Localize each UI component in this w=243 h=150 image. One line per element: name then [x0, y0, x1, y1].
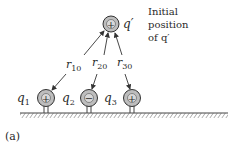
test-charge-label: q′	[123, 17, 134, 31]
svg-text:−: −	[85, 93, 93, 104]
charge-q1: + q1	[17, 90, 55, 108]
r10-label: r10	[66, 58, 81, 73]
charge-stands	[44, 106, 134, 113]
annotation-line1: Initial	[148, 6, 178, 17]
test-charge-sign: +	[107, 19, 115, 30]
test-charge: +	[103, 16, 119, 32]
charge-diagram: + q′ Initial position of q′ r10 r20 r30 …	[0, 0, 243, 150]
q1-label: q1	[17, 91, 30, 107]
svg-text:+: +	[42, 93, 50, 104]
q2-label: q2	[62, 91, 75, 107]
r20-label: r20	[92, 56, 107, 71]
panel-label: (a)	[5, 130, 20, 143]
ground	[20, 113, 228, 118]
svg-text:+: +	[128, 93, 136, 104]
distance-labels: r10 r20 r30	[66, 56, 132, 73]
r30-label: r30	[117, 56, 132, 71]
charge-q3: + q3	[104, 90, 141, 108]
q3-label: q3	[104, 91, 117, 107]
charge-q2: − q2	[62, 90, 98, 108]
annotation-line2: position	[148, 19, 189, 30]
annotation-line3: of q′	[148, 32, 170, 43]
